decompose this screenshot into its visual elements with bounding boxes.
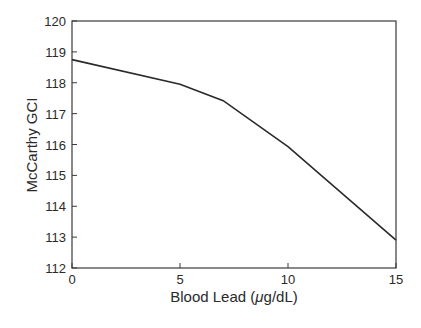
x-tick-label: 15 bbox=[389, 272, 403, 287]
y-tick-label: 112 bbox=[45, 261, 66, 276]
chart-root: 112113114115116117118119120 051015 McCar… bbox=[0, 0, 421, 328]
y-tick-label: 116 bbox=[45, 138, 66, 153]
y-tick-label: 117 bbox=[45, 107, 66, 122]
x-tick-label: 10 bbox=[281, 272, 295, 287]
y-tick-label: 120 bbox=[44, 14, 66, 29]
y-tick-label: 115 bbox=[45, 168, 66, 183]
y-tick-label: 113 bbox=[45, 230, 66, 245]
x-tick-label: 5 bbox=[176, 272, 183, 287]
y-axis-label: McCarthy GCI bbox=[23, 97, 40, 192]
x-tick-label: 0 bbox=[68, 272, 75, 287]
x-axis-ticks: 051015 bbox=[68, 263, 403, 287]
y-tick-label: 118 bbox=[45, 76, 66, 91]
y-tick-label: 119 bbox=[45, 45, 66, 60]
y-tick-label: 114 bbox=[45, 199, 66, 214]
plot-frame bbox=[72, 21, 396, 268]
data-line bbox=[72, 60, 396, 241]
x-axis-label: Blood Lead (μg/dL) bbox=[170, 288, 298, 305]
